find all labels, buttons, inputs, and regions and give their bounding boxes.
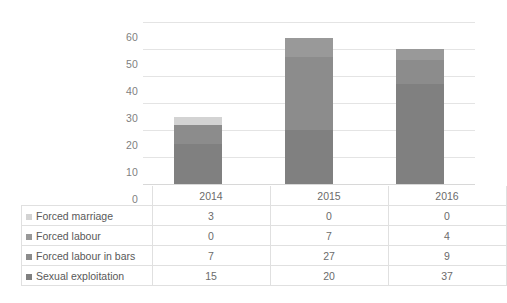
table-cell: 9 xyxy=(388,246,506,266)
plot-area: 60 50 40 30 20 10 0 xyxy=(0,0,491,195)
legend-entry: Forced labour xyxy=(22,226,153,246)
table-corner-cell xyxy=(22,186,153,206)
table-cell: 7 xyxy=(152,246,270,266)
legend-swatch-icon xyxy=(26,254,32,260)
table-cell: 0 xyxy=(388,206,506,226)
bar-stack[interactable] xyxy=(396,49,444,184)
table-cell: 0 xyxy=(152,226,270,246)
data-table: 2014 2015 2016 Forced marriage 3 0 0 For… xyxy=(21,186,507,286)
legend-label: Forced labour in bars xyxy=(36,250,135,262)
bar-segment[interactable] xyxy=(285,38,333,57)
table-header-year: 2016 xyxy=(388,186,506,206)
table-cell: 37 xyxy=(388,266,506,286)
bar-stack[interactable] xyxy=(174,117,222,184)
bars-layer xyxy=(143,0,475,195)
bar-group-2015 xyxy=(254,0,365,195)
y-axis-tick: 30 xyxy=(108,113,138,124)
table-header-year: 2015 xyxy=(270,186,388,206)
table-cell: 15 xyxy=(152,266,270,286)
legend-swatch-icon xyxy=(26,274,32,280)
legend-swatch-icon xyxy=(26,214,32,220)
bar-segment[interactable] xyxy=(174,117,222,125)
legend-label: Forced labour xyxy=(36,230,101,242)
table-cell: 3 xyxy=(152,206,270,226)
bar-stack[interactable] xyxy=(285,38,333,184)
y-axis-tick: 20 xyxy=(108,140,138,151)
table-cell: 20 xyxy=(270,266,388,286)
bar-segment[interactable] xyxy=(174,144,222,185)
legend-entry: Forced marriage xyxy=(22,206,153,226)
legend-entry: Forced labour in bars xyxy=(22,246,153,266)
bar-segment[interactable] xyxy=(285,57,333,130)
table-row: Forced labour in bars 7 27 9 xyxy=(22,246,507,266)
y-axis: 60 50 40 30 20 10 0 xyxy=(108,15,138,185)
y-axis-tick: 40 xyxy=(108,86,138,97)
legend-swatch-icon xyxy=(26,234,32,240)
table-header-row: 2014 2015 2016 xyxy=(22,186,507,206)
table-cell: 7 xyxy=(270,226,388,246)
legend-entry: Sexual exploitation xyxy=(22,266,153,286)
bar-group-2016 xyxy=(364,0,475,195)
y-axis-tick: 10 xyxy=(108,167,138,178)
bar-segment[interactable] xyxy=(285,130,333,184)
legend-label: Forced marriage xyxy=(36,210,113,222)
bar-segment[interactable] xyxy=(396,84,444,184)
bar-group-2014 xyxy=(143,0,254,195)
table-row: Sexual exploitation 15 20 37 xyxy=(22,266,507,286)
bar-segment[interactable] xyxy=(174,125,222,144)
y-axis-tick: 50 xyxy=(108,59,138,70)
table-cell: 0 xyxy=(270,206,388,226)
table-header-year: 2014 xyxy=(152,186,270,206)
bar-segment[interactable] xyxy=(396,60,444,84)
legend-label: Sexual exploitation xyxy=(36,270,124,282)
table-cell: 27 xyxy=(270,246,388,266)
table-row: Forced marriage 3 0 0 xyxy=(22,206,507,226)
table-row: Forced labour 0 7 4 xyxy=(22,226,507,246)
bar-segment[interactable] xyxy=(396,49,444,60)
table-cell: 4 xyxy=(388,226,506,246)
y-axis-tick: 60 xyxy=(108,32,138,43)
